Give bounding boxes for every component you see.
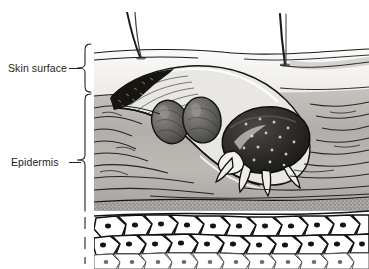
label-epidermis: Epidermis xyxy=(11,156,59,168)
skin-illustration xyxy=(94,12,369,269)
hair-root-shadow xyxy=(136,56,146,59)
leader-line-epidermis xyxy=(69,162,81,163)
curly-brace-epidermis xyxy=(76,93,92,265)
label-skin-surface: Skin surface xyxy=(8,62,67,74)
hair-root-shadow xyxy=(280,63,290,66)
leader-line-skin-surface xyxy=(69,68,81,69)
skin-illustration-svg xyxy=(94,12,369,269)
skin-cross-section-figure: Skin surface Epidermis xyxy=(0,0,369,269)
keratinocyte-row-3 xyxy=(94,253,369,269)
